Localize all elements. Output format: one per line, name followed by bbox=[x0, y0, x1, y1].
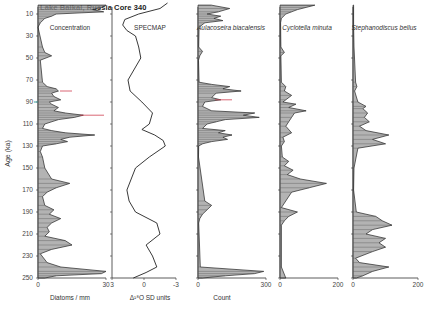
y-tick-label: 190 bbox=[22, 208, 33, 215]
y-tick-label: 30 bbox=[26, 32, 34, 39]
y-tick-label: 170 bbox=[22, 186, 33, 193]
x-tick-label: 0 bbox=[36, 281, 40, 288]
x-tick-label: 200 bbox=[333, 281, 344, 288]
x-tick-label: 30 bbox=[102, 281, 110, 288]
x-tick-label: 0 bbox=[351, 281, 355, 288]
y-tick-label: 230 bbox=[22, 252, 33, 259]
x-tick-label: 0 bbox=[196, 281, 200, 288]
diatom-stratigraphy-chart: 103050709011013015017019021023025003030-… bbox=[0, 0, 442, 314]
y-tick-label: 130 bbox=[22, 142, 33, 149]
y-tick-label: 210 bbox=[22, 230, 33, 237]
area-4 bbox=[353, 5, 392, 278]
y-tick-label: 10 bbox=[26, 10, 34, 17]
y-tick-label: 250 bbox=[22, 274, 33, 281]
y-tick-label: 110 bbox=[23, 120, 34, 127]
specmap-line bbox=[123, 3, 168, 278]
y-tick-label: 70 bbox=[26, 76, 34, 83]
x-tick-label: 0 bbox=[142, 281, 146, 288]
y-tick-label: 90 bbox=[26, 98, 34, 105]
y-tick-label: 50 bbox=[26, 54, 34, 61]
area-3 bbox=[280, 5, 326, 278]
x-tick-label: 300 bbox=[261, 281, 272, 288]
x-tick-label: 0 bbox=[278, 281, 282, 288]
y-tick-label: 150 bbox=[22, 164, 33, 171]
x-tick-label: 3 bbox=[110, 281, 114, 288]
x-tick-label: 200 bbox=[413, 281, 424, 288]
x-tick-label: -3 bbox=[173, 281, 179, 288]
